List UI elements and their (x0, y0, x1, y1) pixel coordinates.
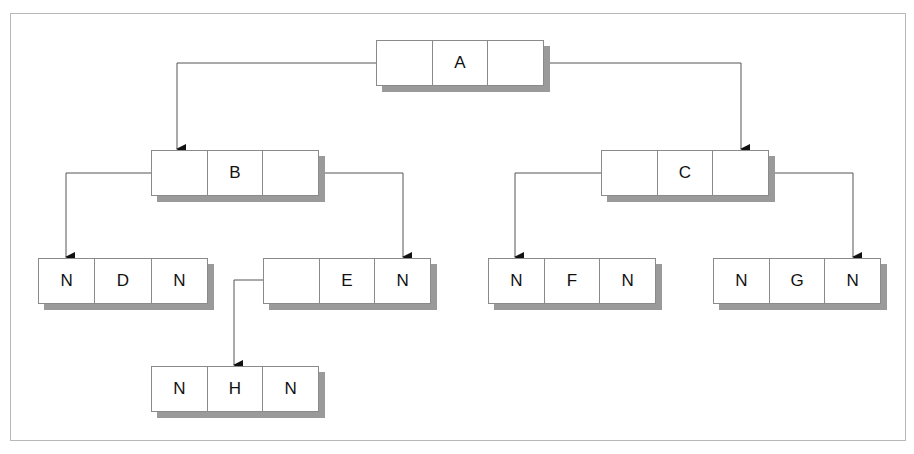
right-pointer-cell (487, 41, 543, 85)
left-pointer-cell (152, 151, 207, 195)
tree-node-B: B (151, 150, 319, 196)
left-pointer-cell (602, 151, 657, 195)
node-box: NGN (713, 258, 881, 304)
tree-node-A: A (376, 40, 544, 86)
tree-node-H: NHN (151, 366, 319, 412)
right-pointer-cell: N (374, 259, 430, 303)
data-cell: G (769, 259, 825, 303)
node-box: NFN (488, 258, 656, 304)
left-pointer-cell: N (152, 367, 207, 411)
right-pointer-cell: N (262, 367, 318, 411)
left-pointer-cell (264, 259, 319, 303)
data-cell: D (94, 259, 150, 303)
left-pointer-cell: N (714, 259, 769, 303)
left-pointer-cell: N (489, 259, 544, 303)
data-cell: A (432, 41, 488, 85)
data-cell: B (207, 151, 263, 195)
node-box: B (151, 150, 319, 196)
left-pointer-cell (377, 41, 432, 85)
tree-node-C: C (601, 150, 769, 196)
tree-node-G: NGN (713, 258, 881, 304)
right-pointer-cell: N (151, 259, 207, 303)
tree-node-D: NDN (38, 258, 208, 304)
node-box: NDN (38, 258, 208, 304)
node-box: EN (263, 258, 431, 304)
right-pointer-cell: N (599, 259, 655, 303)
right-pointer-cell (262, 151, 318, 195)
data-cell: H (207, 367, 263, 411)
left-pointer-cell: N (39, 259, 94, 303)
right-pointer-cell: N (824, 259, 880, 303)
node-box: NHN (151, 366, 319, 412)
node-box: C (601, 150, 769, 196)
data-cell: E (319, 259, 375, 303)
tree-node-E: EN (263, 258, 431, 304)
data-cell: C (657, 151, 713, 195)
tree-node-F: NFN (488, 258, 656, 304)
right-pointer-cell (712, 151, 768, 195)
data-cell: F (544, 259, 600, 303)
edge-A-B (177, 63, 404, 149)
node-box: A (376, 40, 544, 86)
